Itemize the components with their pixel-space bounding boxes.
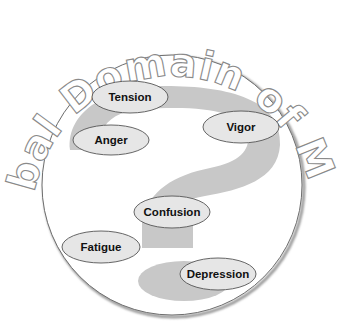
mood-node-fatigue: Fatigue	[62, 231, 140, 263]
mood-node-vigor: Vigor	[203, 111, 279, 143]
mood-label: Fatigue	[81, 241, 122, 253]
mood-label: Depression	[187, 268, 250, 280]
diagram-canvas: Global Domain of Mood TensionAngerVigorC…	[0, 0, 343, 331]
mood-label: Confusion	[144, 206, 201, 218]
mood-diagram: Global Domain of Mood TensionAngerVigorC…	[0, 0, 343, 331]
mood-label: Vigor	[226, 121, 256, 133]
mood-node-depression: Depression	[180, 258, 256, 290]
mood-node-confusion: Confusion	[134, 196, 210, 228]
mood-node-anger: Anger	[73, 125, 149, 155]
mood-label: Tension	[108, 91, 151, 103]
mood-label: Anger	[94, 134, 128, 146]
mood-node-tension: Tension	[92, 81, 168, 113]
